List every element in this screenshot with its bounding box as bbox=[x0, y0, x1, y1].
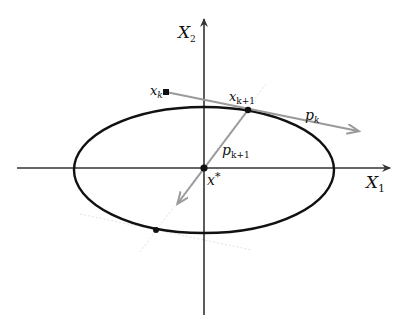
pk-label: pk bbox=[305, 107, 319, 125]
xk1-point bbox=[245, 107, 251, 113]
x1-axis-label: X1 bbox=[364, 172, 385, 195]
xk-label: xk bbox=[150, 83, 163, 100]
xk1-label: xk+1 bbox=[229, 89, 255, 106]
conjugate-gradient-diagram: X2 X1 xk xk+1 pk pk+1 x* bbox=[0, 0, 402, 328]
xk-point bbox=[163, 89, 169, 95]
xstar-label: x* bbox=[207, 170, 221, 188]
pk-arrow bbox=[166, 92, 358, 131]
x2-axis-label: X2 bbox=[176, 22, 196, 44]
tangent-point bbox=[153, 227, 159, 233]
xstar-point bbox=[200, 164, 207, 171]
points bbox=[153, 89, 251, 233]
pk1-label: pk+1 bbox=[222, 142, 250, 160]
